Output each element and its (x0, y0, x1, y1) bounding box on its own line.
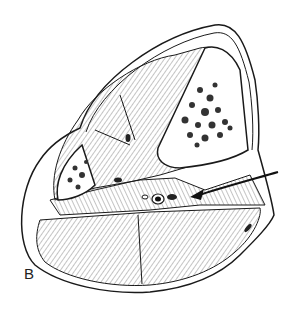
posterior-muscle-group (37, 208, 261, 286)
panel-label: B (24, 265, 34, 282)
leg-cross-section-illustration (0, 0, 298, 324)
